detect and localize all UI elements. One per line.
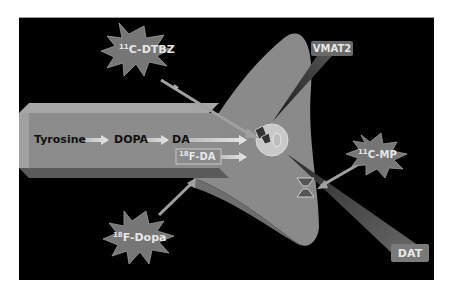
- vesicle: [255, 124, 288, 156]
- step-da: DA: [172, 133, 190, 146]
- label-11c-dtbz: 11C-DTBZ: [119, 43, 175, 56]
- step-tyrosine: Tyrosine: [34, 133, 86, 146]
- diagram-panel: Tyrosine DOPA DA 18F-DA 11C-DTBZ 11C-MP …: [19, 17, 434, 280]
- label-11c-mp: 11C-MP: [358, 148, 397, 160]
- label-vmat2: VMAT2: [311, 43, 353, 54]
- label-18f-da: 18F-DA: [179, 150, 215, 162]
- label-18f-dopa: 18F-Dopa: [113, 231, 166, 244]
- label-dat: DAT: [391, 247, 429, 260]
- step-dopa: DOPA: [114, 133, 148, 146]
